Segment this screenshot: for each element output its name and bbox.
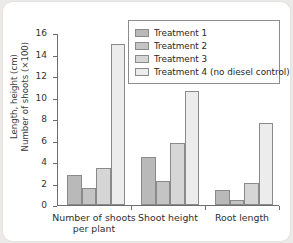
bar [215, 190, 230, 205]
legend-label: Treatment 1 [154, 28, 207, 38]
y-axis-tick: 12 [53, 77, 57, 78]
y-axis-tick: 6 [53, 142, 57, 143]
x-axis-tick [279, 206, 280, 210]
bar [170, 143, 185, 205]
y-axis-tick-label: 14 [36, 50, 47, 60]
y-axis-tick-label: 12 [36, 71, 47, 81]
legend-item: Treatment 4 (no diesel control) [135, 65, 274, 78]
y-axis-tick-label: 2 [41, 179, 47, 189]
y-axis-tick-label: 10 [36, 93, 47, 103]
bar [185, 91, 200, 205]
y-axis-tick: 16 [53, 34, 57, 35]
x-axis-tick [205, 206, 206, 210]
y-axis-tick-label: 0 [41, 200, 47, 210]
y-axis-tick-label: 6 [41, 136, 47, 146]
legend: Treatment 1Treatment 2Treatment 3Treatme… [128, 20, 280, 84]
y-axis-tick: 8 [53, 120, 57, 121]
y-axis-tick-label: 4 [41, 157, 47, 167]
y-axis-tick: 4 [53, 163, 57, 164]
legend-swatch-icon [135, 42, 149, 50]
legend-label: Treatment 2 [154, 41, 207, 51]
bar [67, 175, 82, 205]
legend-label: Treatment 4 (no diesel control) [154, 67, 290, 77]
y-axis-title: Length, height (cm) Number of shoots (×1… [9, 31, 30, 163]
bar [244, 183, 259, 206]
bar [141, 157, 156, 205]
bar [156, 181, 171, 206]
y-axis-tick: 0 [53, 206, 57, 207]
y-axis-tick: 2 [53, 185, 57, 186]
legend-swatch-icon [135, 55, 149, 63]
y-axis-tick: 10 [53, 99, 57, 100]
bar [96, 168, 111, 206]
bar-chart: Length, height (cm) Number of shoots (×1… [3, 2, 290, 241]
category-label: Root length [199, 212, 285, 223]
figure-panel: Length, height (cm) Number of shoots (×1… [3, 2, 290, 241]
legend-swatch-icon [135, 68, 149, 76]
legend-swatch-icon [135, 29, 149, 37]
x-axis-tick [131, 206, 132, 210]
legend-item: Treatment 1 [135, 26, 274, 39]
bar [259, 123, 274, 205]
legend-item: Treatment 3 [135, 52, 274, 65]
y-axis-tick-label: 8 [41, 114, 47, 124]
y-axis-tick: 14 [53, 56, 57, 57]
legend-item: Treatment 2 [135, 39, 274, 52]
bar [111, 44, 126, 205]
legend-label: Treatment 3 [154, 54, 207, 64]
y-axis-tick-label: 16 [36, 28, 47, 38]
y-axis-line [57, 34, 58, 206]
bar [230, 200, 245, 205]
bar [82, 188, 97, 206]
